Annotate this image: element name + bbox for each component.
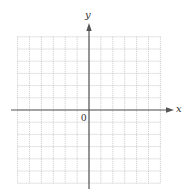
coordinate-plane: y x 0 xyxy=(0,0,184,193)
x-axis-label: x xyxy=(176,104,182,114)
y-axis-arrow-icon xyxy=(86,23,91,31)
coordinate-grid-graphic xyxy=(0,0,184,193)
y-axis-label: y xyxy=(85,10,91,20)
x-axis-arrow-icon xyxy=(166,107,174,112)
origin-label: 0 xyxy=(81,112,87,123)
axes xyxy=(11,23,174,189)
